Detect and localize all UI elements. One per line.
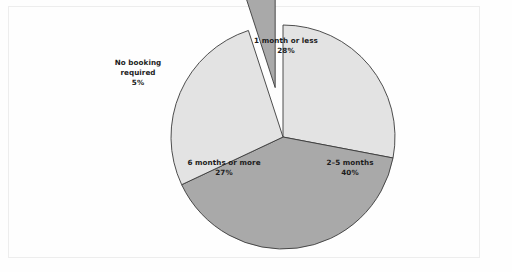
pie-label-two-to-five-months-value: 40% — [307, 168, 393, 178]
pie-label-six-months-or-more-value: 27% — [163, 168, 285, 178]
pie-label-no-booking-required: No booking required 5% — [96, 58, 180, 89]
pie-label-two-to-five-months: 2–5 months 40% — [307, 158, 393, 178]
pie-label-no-booking-required-text-line2: required — [96, 68, 180, 78]
pie-label-two-to-five-months-text: 2–5 months — [307, 158, 393, 168]
pie-label-one-month-or-less-text: 1 month or less — [227, 36, 345, 46]
pie-label-one-month-or-less: 1 month or less 28% — [227, 36, 345, 56]
pie-label-one-month-or-less-value: 28% — [227, 46, 345, 56]
pie-label-six-months-or-more-text: 6 months or more — [163, 158, 285, 168]
pie-label-no-booking-required-text-line1: No booking — [96, 58, 180, 68]
pie-label-six-months-or-more: 6 months or more 27% — [163, 158, 285, 178]
pie-label-no-booking-required-value: 5% — [96, 78, 180, 88]
pie-chart-screenshot: 1 month or less 28% 2–5 months 40% 6 mon… — [0, 0, 512, 272]
